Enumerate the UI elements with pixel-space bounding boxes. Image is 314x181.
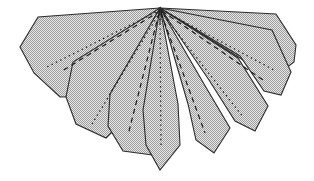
figure-root xyxy=(0,0,314,181)
fan-petal-diagram xyxy=(0,0,314,181)
